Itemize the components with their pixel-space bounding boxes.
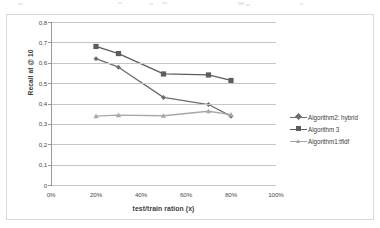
- y-axis-tick: [48, 83, 52, 84]
- scan-artifact: [238, 2, 244, 5]
- y-axis-tick: [48, 104, 52, 105]
- y-axis-tick: [48, 42, 52, 43]
- chart-container: Recall at @ 10 00,10,20,30,40,50,60,70,8…: [6, 14, 374, 220]
- gridline: [51, 22, 276, 23]
- y-axis-tick-label: 0,2: [13, 141, 47, 148]
- y-axis-tick: [48, 165, 52, 166]
- gridline: [51, 185, 276, 186]
- legend-item[interactable]: Algorithm 3: [290, 123, 374, 135]
- legend-marker-icon: [290, 137, 307, 146]
- legend-marker-icon: [290, 125, 307, 134]
- gridline: [51, 165, 276, 166]
- scan-artifact: [18, 3, 23, 5]
- gridline: [51, 83, 276, 84]
- x-axis-tick-label: 20%: [83, 191, 109, 198]
- y-axis-tick: [48, 63, 52, 64]
- legend-marker-icon: [290, 113, 307, 122]
- gridline: [51, 63, 276, 64]
- x-axis-title: test/train ration (x): [51, 205, 276, 212]
- x-axis-tick-label: 100%: [263, 191, 289, 198]
- y-axis-tick: [48, 144, 52, 145]
- scan-noise-band: [0, 0, 380, 14]
- gridline: [51, 144, 276, 145]
- x-axis-tick-label: 80%: [218, 191, 244, 198]
- gridline: [51, 104, 276, 105]
- y-axis-tick-label: 0,1: [13, 161, 47, 168]
- x-axis-tick-labels: 0%20%40%60%80%100%: [7, 191, 337, 203]
- scan-artifact: [162, 2, 167, 4]
- legend-item-label: Algorithm 3: [308, 126, 339, 133]
- scan-artifact: [150, 3, 153, 5]
- scan-artifact: [246, 4, 250, 6]
- y-axis-tick-label: 0,7: [13, 39, 47, 46]
- y-axis-tick-label: 0,4: [13, 100, 47, 107]
- y-axis-tick-label: 0: [13, 182, 47, 189]
- series-marker: [93, 44, 98, 49]
- gridline: [51, 42, 276, 43]
- y-axis-tick-label: 0,8: [13, 19, 47, 26]
- y-axis-tick: [48, 185, 52, 186]
- legend-item[interactable]: Algorithm2: hybrid: [290, 111, 374, 123]
- x-axis-tick-label: 0%: [38, 191, 64, 198]
- x-axis-tick-label: 60%: [173, 191, 199, 198]
- y-axis-tick-label: 0,3: [13, 120, 47, 127]
- chart-legend: Algorithm2: hybridAlgorithm 3Algorithm1:…: [290, 111, 374, 147]
- scan-artifact: [118, 2, 122, 4]
- series-marker: [161, 71, 166, 76]
- legend-item[interactable]: Algorithm1:tfidf: [290, 135, 374, 147]
- legend-item-label: Algorithm1:tfidf: [308, 138, 349, 145]
- legend-item-label: Algorithm2: hybrid: [308, 114, 358, 121]
- y-axis-tick-label: 0,6: [13, 59, 47, 66]
- series-marker: [206, 72, 211, 77]
- y-axis-tick: [48, 22, 52, 23]
- y-axis-tick: [48, 124, 52, 125]
- x-axis-tick-label: 40%: [128, 191, 154, 198]
- series-marker: [94, 56, 99, 61]
- y-axis-tick-label: 0,5: [13, 80, 47, 87]
- series-marker: [116, 51, 121, 56]
- scan-artifact: [300, 3, 303, 5]
- plot-area: [51, 22, 276, 185]
- gridline: [51, 124, 276, 125]
